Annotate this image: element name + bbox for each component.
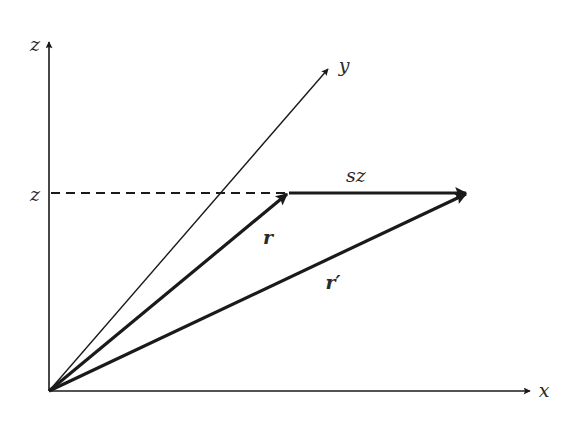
vector-r-prime <box>49 194 466 391</box>
y-axis <box>49 69 328 391</box>
x-axis-label: x <box>539 381 550 400</box>
y-axis-label: y <box>339 56 350 75</box>
vector-r-prime-label: r′ <box>325 273 340 292</box>
z-level-tick-label: z <box>30 185 40 204</box>
vector-sz-label: sz <box>346 166 366 185</box>
vector-diagram <box>0 0 574 422</box>
vector-r-label: r <box>263 228 273 247</box>
z-axis-label: z <box>30 35 40 54</box>
vector-r <box>49 194 287 391</box>
